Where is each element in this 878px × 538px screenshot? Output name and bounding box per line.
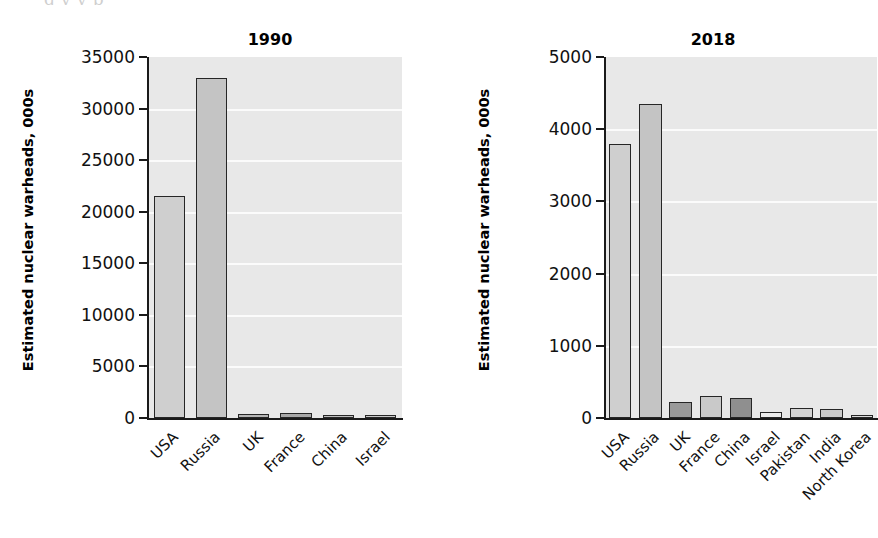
y-tick-mark bbox=[139, 56, 147, 58]
bar-china[interactable] bbox=[730, 398, 752, 418]
chart-title-2018: 2018 bbox=[548, 30, 878, 49]
y-tick-mark bbox=[139, 211, 147, 213]
bar-slot bbox=[817, 57, 847, 418]
y-tick-label: 3000 bbox=[549, 191, 592, 211]
bar-slot bbox=[190, 57, 232, 418]
y-tick-label: 0 bbox=[124, 408, 135, 428]
bar-russia[interactable] bbox=[639, 104, 661, 418]
x-tick-slot: Israel bbox=[360, 422, 402, 532]
y-tick-label: 35000 bbox=[81, 47, 135, 67]
x-tick-slot: Russia bbox=[635, 422, 665, 532]
bar-series-2018 bbox=[605, 57, 877, 418]
y-tick-label: 2000 bbox=[549, 264, 592, 284]
x-tick-slot: China bbox=[317, 422, 359, 532]
bar-slot bbox=[360, 57, 402, 418]
x-tick-labels-2018: USARussiaUKFranceChinaIsraelPakistanIndi… bbox=[605, 422, 877, 532]
bar-slot bbox=[233, 57, 275, 418]
x-tick-slot: UK bbox=[665, 422, 695, 532]
bar-slot bbox=[665, 57, 695, 418]
y-tick-mark bbox=[596, 345, 604, 347]
bar-slot bbox=[317, 57, 359, 418]
y-axis-title-2018: Estimated nuclear warheads, 000s bbox=[476, 50, 492, 410]
y-tick-mark bbox=[596, 417, 604, 419]
y-axis-1990: 05000100001500020000250003000035000 bbox=[147, 57, 149, 418]
bar-slot bbox=[605, 57, 635, 418]
y-tick-mark bbox=[139, 314, 147, 316]
x-axis-1990 bbox=[147, 418, 403, 420]
y-tick-mark bbox=[596, 128, 604, 130]
chart-panel-2018: 2018 Estimated nuclear warheads, 000s 01… bbox=[428, 0, 866, 538]
y-tick-label: 15000 bbox=[81, 253, 135, 273]
y-tick-mark bbox=[139, 262, 147, 264]
bar-india[interactable] bbox=[820, 409, 842, 418]
y-tick-label: 5000 bbox=[549, 47, 592, 67]
y-tick-mark bbox=[139, 159, 147, 161]
y-tick-label: 30000 bbox=[81, 99, 135, 119]
x-tick-slot: Russia bbox=[190, 422, 232, 532]
bar-slot bbox=[696, 57, 726, 418]
bar-usa[interactable] bbox=[609, 144, 631, 418]
x-tick-label-uk: UK bbox=[239, 428, 266, 455]
bar-slot bbox=[756, 57, 786, 418]
bar-slot bbox=[148, 57, 190, 418]
x-tick-slot: France bbox=[275, 422, 317, 532]
y-tick-mark bbox=[139, 365, 147, 367]
bar-slot bbox=[786, 57, 816, 418]
y-tick-mark bbox=[596, 56, 604, 58]
x-tick-slot: USA bbox=[605, 422, 635, 532]
chart-panel-1990: 1990 Estimated nuclear warheads, 000s 05… bbox=[0, 0, 440, 538]
x-tick-slot: North Korea bbox=[847, 422, 877, 532]
bar-pakistan[interactable] bbox=[790, 408, 812, 418]
bar-uk[interactable] bbox=[669, 402, 691, 418]
y-tick-mark bbox=[596, 200, 604, 202]
x-tick-labels-1990: USARussiaUKFranceChinaIsrael bbox=[148, 422, 402, 532]
x-axis-2018 bbox=[604, 418, 878, 420]
y-tick-label: 5000 bbox=[92, 356, 135, 376]
x-tick-slot: France bbox=[696, 422, 726, 532]
y-tick-label: 20000 bbox=[81, 202, 135, 222]
plot-area-1990 bbox=[148, 57, 402, 418]
y-tick-label: 1000 bbox=[549, 336, 592, 356]
bar-series-1990 bbox=[148, 57, 402, 418]
bar-slot bbox=[275, 57, 317, 418]
y-tick-label: 10000 bbox=[81, 305, 135, 325]
bar-slot bbox=[635, 57, 665, 418]
bar-usa[interactable] bbox=[154, 196, 185, 418]
bar-slot bbox=[726, 57, 756, 418]
x-tick-slot: UK bbox=[233, 422, 275, 532]
bar-slot bbox=[847, 57, 877, 418]
y-tick-mark bbox=[596, 273, 604, 275]
y-axis-2018: 010002000300040005000 bbox=[604, 57, 606, 418]
bar-russia[interactable] bbox=[196, 78, 227, 418]
y-axis-title-1990: Estimated nuclear warheads, 000s bbox=[20, 50, 36, 410]
plot-area-2018 bbox=[605, 57, 877, 418]
y-tick-label: 25000 bbox=[81, 150, 135, 170]
x-tick-slot: USA bbox=[148, 422, 190, 532]
y-tick-mark bbox=[139, 417, 147, 419]
y-tick-mark bbox=[139, 108, 147, 110]
x-tick-label-usa: USA bbox=[147, 428, 182, 463]
y-tick-label: 0 bbox=[581, 408, 592, 428]
bar-france[interactable] bbox=[700, 396, 722, 418]
y-tick-label: 4000 bbox=[549, 119, 592, 139]
x-tick-slot: China bbox=[726, 422, 756, 532]
chart-title-1990: 1990 bbox=[120, 30, 420, 49]
